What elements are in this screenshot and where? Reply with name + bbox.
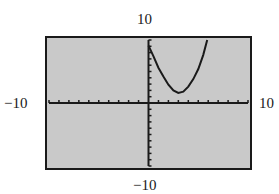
graphing-calculator-screen: [0, 0, 279, 194]
